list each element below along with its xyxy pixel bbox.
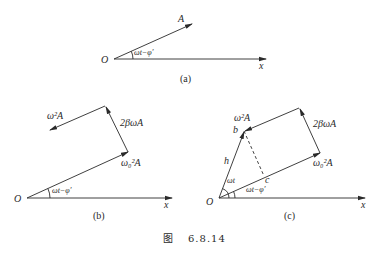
h-label: h — [224, 155, 229, 166]
b-point-label: b — [233, 124, 238, 135]
origin-label: O — [101, 54, 108, 65]
2beta-label: 2βωA — [313, 118, 337, 129]
dashed-projection — [244, 131, 264, 176]
2beta-label: 2βωA — [120, 117, 144, 128]
figure-caption-prefix: 图 — [163, 233, 174, 244]
omega2-label: ω²A — [234, 112, 251, 123]
c-point-label: c — [265, 174, 270, 185]
figure-caption-number: 6.8.14 — [188, 233, 226, 244]
panel-c-caption: (c) — [284, 210, 295, 222]
angle-arc-small — [234, 192, 235, 199]
angle-label: ωt−φ′ — [246, 185, 266, 194]
angle-label: ωt−φ′ — [134, 48, 154, 57]
panel-b-caption: (b) — [93, 210, 105, 222]
figure-caption: 图 6.8.14 — [163, 233, 226, 244]
panel-c: O x ωt ωt−φ′ ω₀²A 2βωA ω²A h b c (c) — [206, 108, 366, 222]
x-axis-label: x — [258, 60, 264, 71]
vector-2beta-arrow — [106, 107, 128, 152]
angle-wt-label: ωt — [227, 176, 236, 185]
x-axis-label: x — [360, 199, 366, 210]
vector-a-label: A — [177, 13, 185, 24]
vector-omega2-arrow — [245, 108, 299, 131]
omega0-label: ω₀²A — [121, 157, 142, 168]
origin-label: O — [206, 196, 213, 207]
omega2-label: ω²A — [47, 110, 64, 121]
x-axis-label: x — [163, 199, 169, 210]
panel-b: O x ωt−φ′ ω₀²A 2βωA ω²A (b) — [14, 106, 172, 222]
phasor-diagram: O x A ωt−φ′ (a) O x ωt−φ′ ω₀²A 2βωA ω²A … — [0, 0, 383, 257]
angle-arc-wt — [223, 189, 230, 198]
vector-2beta-arrow — [300, 109, 320, 153]
angle-arc — [48, 189, 50, 199]
angle-label: ωt−φ′ — [52, 186, 72, 195]
origin-label: O — [14, 193, 21, 204]
angle-arc — [131, 51, 133, 59]
panel-a: O x A ωt−φ′ (a) — [101, 13, 266, 85]
vector-omega0-arrow — [27, 152, 128, 198]
panel-a-caption: (a) — [180, 73, 191, 85]
omega0-label: ω₀²A — [313, 157, 334, 168]
